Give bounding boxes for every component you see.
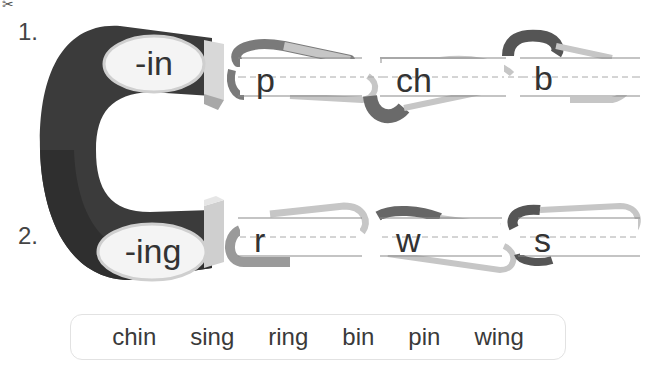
word-blank-2-3[interactable]: s [520, 219, 638, 255]
word-blank-1-3[interactable]: b [522, 59, 638, 95]
start-letters: r [254, 223, 265, 257]
start-letters: w [396, 223, 421, 257]
start-letters: ch [396, 63, 432, 97]
word-bank: chin sing ring bin pin wing [70, 314, 566, 360]
word-blank-1-2[interactable]: ch [382, 59, 504, 95]
word-blank-2-2[interactable]: w [382, 219, 500, 255]
word-bank-item: pin [408, 323, 440, 351]
word-bank-item: sing [190, 323, 234, 351]
row-number-1: 1. [18, 18, 38, 46]
start-letters: b [534, 61, 553, 95]
word-bank-item: chin [112, 323, 156, 351]
start-letters: s [534, 223, 551, 257]
row-number-2: 2. [18, 222, 38, 250]
word-blank-1-1[interactable]: p [240, 59, 360, 95]
ending-label-in: -in [104, 44, 204, 83]
word-bank-item: bin [342, 323, 374, 351]
start-letters: p [256, 63, 275, 97]
word-bank-item: wing [474, 323, 523, 351]
word-bank-item: ring [268, 323, 308, 351]
word-blank-2-1[interactable]: r [240, 219, 360, 255]
ending-label-ing: -ing [98, 232, 208, 271]
